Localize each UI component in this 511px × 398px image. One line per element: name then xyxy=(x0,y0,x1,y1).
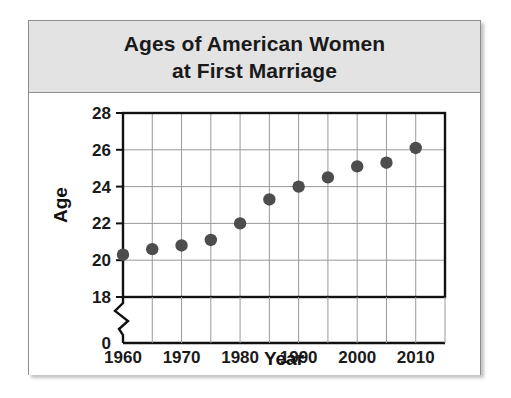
x-axis-title: Year xyxy=(264,348,305,369)
x-tick-label-1960: 1960 xyxy=(104,348,142,367)
chart-card: Ages of American Women at First Marriage xyxy=(28,20,481,375)
data-point-2005 xyxy=(380,156,392,168)
y-tick-label-20: 20 xyxy=(92,251,111,270)
x-tick-label-1980: 1980 xyxy=(221,348,259,367)
figure-root: Ages of American Women at First Marriage xyxy=(0,0,511,398)
data-point-1995 xyxy=(322,171,334,183)
data-point-1970 xyxy=(175,239,187,251)
chart-title-line-2: at First Marriage xyxy=(172,57,337,84)
scatter-chart: 1820222426280 196019701980199020002010 A… xyxy=(29,93,480,375)
y-tick-label-24: 24 xyxy=(92,178,111,197)
y-axis-title: Age xyxy=(50,187,71,223)
data-point-1980 xyxy=(234,217,246,229)
x-axis-ticks xyxy=(152,297,445,343)
plot-background xyxy=(123,113,445,297)
y-axis-tick-labels: 1820222426280 xyxy=(92,104,111,353)
data-point-1985 xyxy=(263,193,275,205)
y-tick-label-28: 28 xyxy=(92,104,111,123)
data-point-1965 xyxy=(146,243,158,255)
data-point-1990 xyxy=(292,180,304,192)
y-tick-label-18: 18 xyxy=(92,288,111,307)
y-axis-break-zigzag xyxy=(115,297,128,343)
data-point-2010 xyxy=(410,142,422,154)
x-tick-label-2000: 2000 xyxy=(338,348,376,367)
x-tick-label-1970: 1970 xyxy=(163,348,201,367)
chart-plot-region: 1820222426280 196019701980199020002010 A… xyxy=(29,93,480,375)
y-tick-label-26: 26 xyxy=(92,141,111,160)
data-point-1975 xyxy=(205,234,217,246)
x-tick-label-2010: 2010 xyxy=(397,348,435,367)
chart-title-banner: Ages of American Women at First Marriage xyxy=(29,21,480,93)
data-point-2000 xyxy=(351,160,363,172)
y-tick-label-22: 22 xyxy=(92,214,111,233)
data-point-1960 xyxy=(117,248,129,260)
chart-title-line-1: Ages of American Women xyxy=(124,30,385,57)
